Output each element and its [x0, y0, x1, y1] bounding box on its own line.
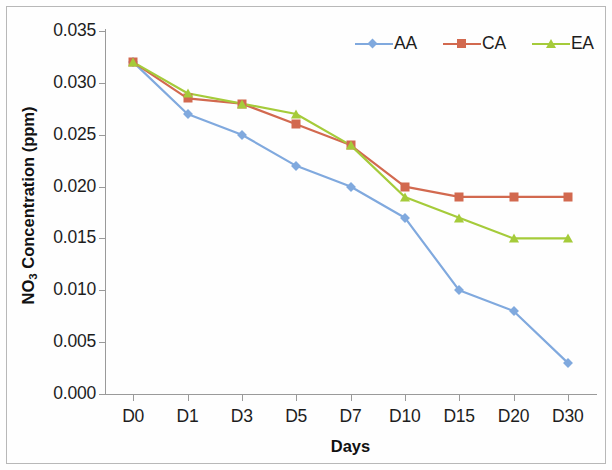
data-point-ea-d15 — [454, 213, 464, 222]
data-point-ea-d30 — [563, 234, 573, 243]
data-point-ea-d0 — [128, 58, 138, 67]
legend-label-ca: CA — [482, 33, 506, 54]
legend-swatch-aa — [355, 37, 393, 51]
y-tick-mark — [99, 135, 105, 136]
x-tick-mark — [405, 395, 406, 401]
chart-figure: 0.0000.0050.0100.0150.0200.0250.0300.035… — [0, 0, 612, 470]
data-point-ca-d10 — [400, 182, 409, 191]
x-tick-mark — [514, 395, 515, 401]
legend-label-aa: AA — [394, 33, 417, 54]
data-point-ea-d10 — [400, 192, 410, 201]
y-tick-label: 0.000 — [4, 383, 96, 404]
y-tick-mark — [99, 342, 105, 343]
legend-label-ea: EA — [571, 33, 594, 54]
y-tick-mark — [99, 83, 105, 84]
x-tick-mark — [568, 395, 569, 401]
data-point-ea-d7 — [346, 141, 356, 150]
x-tick-mark — [351, 395, 352, 401]
data-point-ea-d1 — [183, 89, 193, 98]
x-tick-mark — [133, 395, 134, 401]
data-point-ca-d5 — [292, 120, 301, 129]
legend-entry-ea[interactable]: EA — [532, 33, 594, 54]
x-tick-mark — [242, 395, 243, 401]
legend-marker-diamond-icon — [368, 39, 378, 49]
x-axis-title: Days — [106, 437, 595, 456]
y-axis-title-rest: Concentration (ppm) — [19, 107, 37, 274]
legend-marker-triangle-icon — [546, 39, 556, 48]
data-point-ca-d20 — [509, 192, 518, 201]
y-axis-title-subscript: 3 — [27, 273, 39, 279]
data-point-ea-d5 — [291, 109, 301, 118]
y-tick-mark — [99, 394, 105, 395]
x-tick-mark — [296, 395, 297, 401]
legend-marker-square-icon — [457, 39, 466, 48]
y-axis-title-main: NO — [19, 280, 37, 305]
chart-legend: AACAEA — [355, 33, 594, 54]
series-line-ea — [133, 62, 568, 238]
legend-entry-aa[interactable]: AA — [355, 33, 417, 54]
y-tick-mark — [99, 187, 105, 188]
legend-entry-ca[interactable]: CA — [443, 33, 506, 54]
y-tick-mark — [99, 290, 105, 291]
data-point-ca-d30 — [563, 192, 572, 201]
x-tick-mark — [188, 395, 189, 401]
legend-swatch-ca — [443, 37, 481, 51]
series-lines — [106, 31, 595, 394]
x-tick-label: D30 — [528, 406, 608, 427]
y-axis-title: NO3 Concentration (ppm) — [19, 36, 38, 376]
legend-swatch-ea — [532, 37, 570, 51]
series-line-aa — [133, 62, 568, 363]
y-tick-mark — [99, 31, 105, 32]
x-tick-mark — [459, 395, 460, 401]
data-point-ca-d15 — [455, 192, 464, 201]
plot-area — [106, 31, 595, 394]
data-point-ea-d3 — [237, 99, 247, 108]
y-tick-mark — [99, 238, 105, 239]
data-point-ea-d20 — [509, 234, 519, 243]
series-line-ca — [133, 62, 568, 197]
